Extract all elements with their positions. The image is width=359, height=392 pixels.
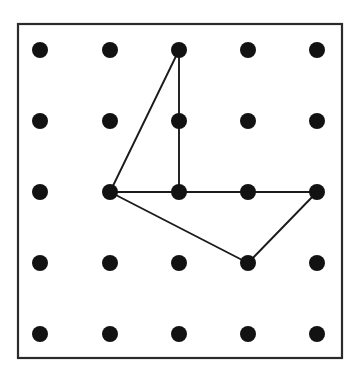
peg-dot-vertex [309,184,325,200]
peg-dot [32,255,48,271]
peg-dot-vertex [102,184,118,200]
peg-dot [32,113,48,129]
peg-dot [32,42,48,58]
geoboard-canvas [0,0,359,392]
peg-dot-vertex [171,184,187,200]
peg-dot [240,326,256,342]
peg-dot [240,42,256,58]
peg-dot [32,184,48,200]
peg-dot [309,255,325,271]
peg-dot [171,326,187,342]
peg-dot [102,113,118,129]
peg-dot [171,255,187,271]
peg-dot [102,326,118,342]
peg-dot [102,255,118,271]
peg-dot [309,326,325,342]
peg-dot [240,113,256,129]
peg-dot [309,113,325,129]
peg-dot-vertex [240,184,256,200]
peg-dot [309,42,325,58]
peg-dot [102,42,118,58]
geoboard-figure [0,0,359,392]
peg-dot [171,113,187,129]
peg-dot [32,326,48,342]
peg-dot-vertex [240,255,256,271]
peg-dot-vertex [171,42,187,58]
